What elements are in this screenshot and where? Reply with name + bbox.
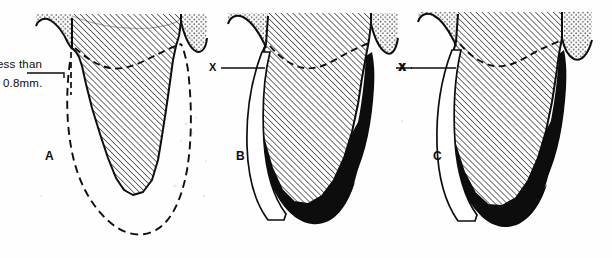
figure-root: ess than 0.8mm. A B C X X X bbox=[0, 0, 612, 258]
panel-a-letter-label: A bbox=[45, 149, 54, 163]
panel-b-letter-label: B bbox=[236, 149, 245, 163]
panel-c-letter-label: C bbox=[433, 149, 442, 163]
diagram-canvas bbox=[0, 0, 612, 258]
callout-label-less-than-line1: ess than bbox=[0, 58, 42, 70]
panel-b-x-marker-left: X bbox=[209, 61, 216, 73]
callout-label-less-than-line2: 0.8mm. bbox=[3, 77, 43, 89]
panel-c-x-marker-left: X bbox=[399, 61, 406, 73]
